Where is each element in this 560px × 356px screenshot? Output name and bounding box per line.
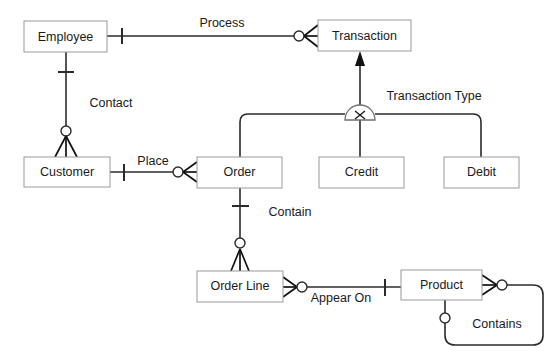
relationship-label-place: Place: [137, 154, 168, 168]
entity-label-product: Product: [420, 278, 464, 292]
crows-foot-contains-product: [482, 275, 497, 295]
relationship-label-appear-on: Appear On: [311, 291, 372, 305]
relationship-label-process: Process: [199, 16, 244, 30]
entity-transaction[interactable]: Transaction: [318, 20, 411, 51]
entity-product[interactable]: Product: [401, 270, 482, 300]
entity-label-credit: Credit: [345, 165, 379, 179]
crows-foot-contain-orderline: [231, 249, 249, 271]
crows-foot-appearon-orderline: [283, 277, 297, 297]
entity-label-debit: Debit: [467, 165, 497, 179]
entity-order[interactable]: Order: [197, 157, 282, 188]
connector-transaction-type: [240, 51, 481, 157]
entity-label-order: Order: [224, 165, 256, 179]
connector-contact: [55, 52, 77, 157]
crows-foot-contact-customer: [55, 136, 77, 157]
entity-label-customer: Customer: [40, 165, 94, 179]
crows-foot-process-transaction: [304, 25, 318, 47]
er-diagram-canvas: Employee Transaction Customer Order Cred…: [0, 0, 560, 356]
relationship-label-contain: Contain: [268, 205, 311, 219]
entity-label-order-line: Order Line: [210, 279, 269, 293]
entity-order-line[interactable]: Order Line: [197, 271, 283, 302]
relationship-label-contact: Contact: [89, 96, 133, 110]
crows-foot-place-order: [183, 162, 197, 182]
relationship-label-contains: Contains: [472, 317, 521, 331]
entity-label-employee: Employee: [38, 30, 94, 44]
er-diagram-svg: Employee Transaction Customer Order Cred…: [0, 0, 560, 356]
entity-label-transaction: Transaction: [332, 29, 397, 43]
connector-contain: [231, 188, 249, 271]
entity-customer[interactable]: Customer: [24, 157, 110, 187]
entity-employee[interactable]: Employee: [24, 21, 107, 52]
entity-debit[interactable]: Debit: [444, 157, 519, 188]
relationship-label-transaction-type: Transaction Type: [386, 89, 481, 103]
entity-credit[interactable]: Credit: [319, 157, 404, 188]
